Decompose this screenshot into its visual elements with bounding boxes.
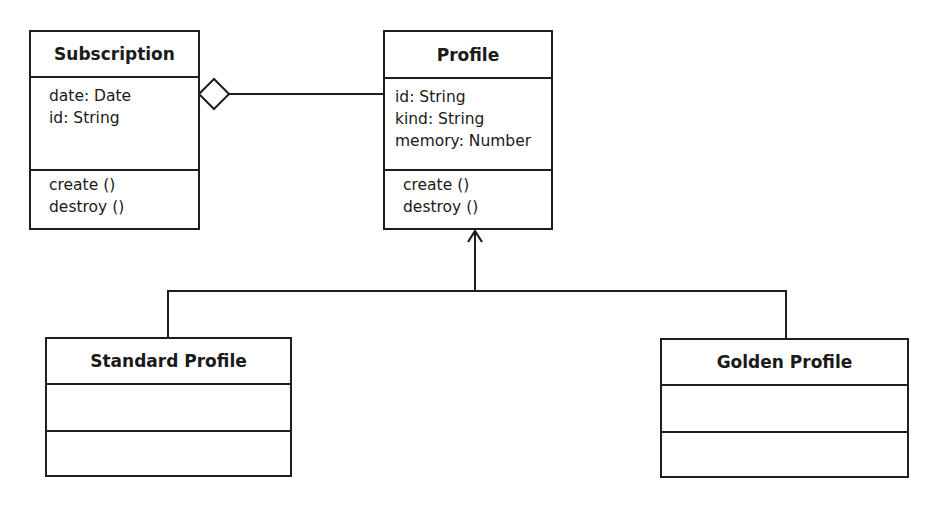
class-profile[interactable]: Profile id: String kind: String memory: … [383, 30, 553, 230]
class-standard-profile[interactable]: Standard Profile [45, 337, 292, 477]
attribute: id: String [395, 86, 551, 108]
class-name: Subscription [31, 32, 198, 78]
class-golden-profile[interactable]: Golden Profile [660, 338, 909, 478]
class-subscription[interactable]: Subscription date: Date id: String creat… [29, 30, 200, 230]
operation: destroy () [403, 196, 551, 218]
class-operations: create () destroy () [31, 171, 198, 218]
class-name: Golden Profile [662, 340, 907, 386]
aggregation-diamond-icon [199, 79, 229, 109]
attribute: id: String [49, 107, 198, 129]
class-attributes [47, 385, 290, 432]
attribute: memory: Number [395, 130, 551, 152]
class-attributes: id: String kind: String memory: Number [385, 79, 551, 171]
operation: create () [49, 174, 198, 196]
class-operations: create () destroy () [385, 171, 551, 218]
attribute: kind: String [395, 108, 551, 130]
attribute: date: Date [49, 85, 198, 107]
class-name: Standard Profile [47, 339, 290, 385]
operation: destroy () [49, 196, 198, 218]
class-attributes [662, 386, 907, 433]
class-attributes: date: Date id: String [31, 78, 198, 171]
operation: create () [403, 174, 551, 196]
class-name: Profile [385, 32, 551, 79]
